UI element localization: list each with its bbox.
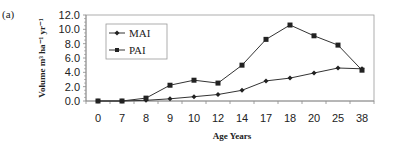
x-tick-label: 25 [332,112,344,124]
y-tick-label: 8.0 [65,38,80,50]
square-marker-icon [120,99,125,104]
y-tick-label: 6.0 [65,52,80,64]
x-tick-label: 14 [236,112,248,124]
x-tick-label: 12 [212,112,224,124]
square-marker-icon [264,37,269,42]
x-axis-title: Age Years [213,131,252,141]
x-tick-label: 0 [95,112,101,124]
y-tick-label: 12.0 [59,9,80,21]
square-marker-icon [216,81,221,86]
diamond-marker-icon [264,78,269,83]
y-tick-label: 2.0 [65,81,80,93]
x-tick-label: 9 [167,112,173,124]
diamond-marker-icon [240,88,245,93]
x-tick-label: 20 [308,112,320,124]
legend: MAI PAI [106,24,167,59]
square-marker-icon [240,63,245,68]
square-marker-icon [336,43,341,48]
x-axis-ticks: 07891012141718202538 [86,101,374,124]
x-tick-label: 10 [188,112,200,124]
y-axis-title: Volume m³ ha⁻¹ yr⁻¹ [37,18,47,98]
y-axis-ticks: 0.02.04.06.08.010.012.0 [59,9,86,107]
square-marker-icon [312,33,317,38]
x-tick-label: 17 [260,112,272,124]
panel-label: (a) [2,8,15,21]
square-marker-icon [115,48,119,52]
x-tick-label: 8 [143,112,149,124]
diamond-marker-icon [336,66,341,71]
line-chart: (a) Volume m³ ha⁻¹ yr⁻¹ 0.02.04.06.08.01… [0,0,398,146]
square-marker-icon [192,78,197,83]
square-marker-icon [144,96,149,101]
y-tick-label: 0.0 [65,95,80,107]
y-tick-label: 4.0 [65,66,80,78]
diamond-marker-icon [192,94,197,99]
x-tick-label: 7 [119,112,125,124]
diamond-marker-icon [288,76,293,81]
series-line-mai [98,68,362,101]
square-marker-icon [96,99,101,104]
square-marker-icon [288,23,293,28]
x-tick-label: 38 [356,112,368,124]
legend-label-mai: MAI [129,27,151,39]
square-marker-icon [360,68,365,73]
legend-label-pai: PAI [129,44,146,56]
x-tick-label: 18 [284,112,296,124]
diamond-marker-icon [216,92,221,97]
y-tick-label: 10.0 [59,23,80,35]
diamond-marker-icon [312,71,317,76]
square-marker-icon [168,83,173,88]
